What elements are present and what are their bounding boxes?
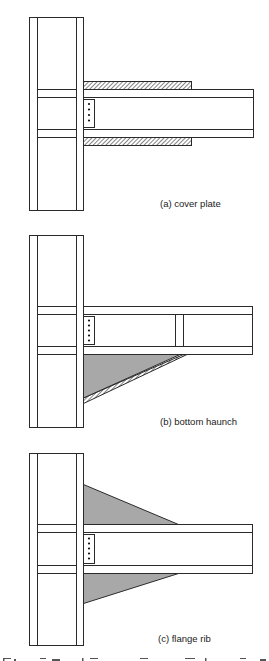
connection-configurations-diagram: (a) cover plate (0, 0, 269, 661)
beam (84, 525, 253, 574)
panel-b-label: (b) bottom haunch (160, 416, 237, 427)
bottom-flange-rib (84, 574, 179, 604)
top-flange-rib (84, 485, 179, 525)
column (30, 236, 84, 428)
beam (84, 90, 254, 138)
top-cover-plate (84, 82, 192, 90)
column (30, 18, 84, 211)
panel-a-cover-plate (30, 18, 254, 211)
haunch-web (84, 355, 181, 399)
panel-b-bottom-haunch (30, 236, 253, 428)
column (30, 454, 84, 646)
panel-c-flange-rib (30, 454, 253, 646)
bottom-cover-plate (84, 138, 192, 146)
panel-a-label: (a) cover plate (160, 198, 221, 209)
beam (84, 307, 253, 355)
panel-c-label: (c) flange rib (158, 633, 211, 644)
